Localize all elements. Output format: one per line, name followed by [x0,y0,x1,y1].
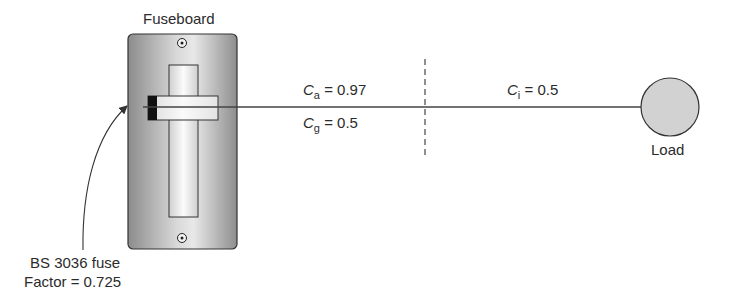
screw-icon-bottom [178,234,187,243]
factor-ci-label: Ci = 0.5 [507,81,558,98]
load-circle [641,78,699,136]
factor-ci-subscript: i [518,89,520,101]
fuse-element [148,96,157,120]
screw-icon-top [178,39,187,48]
factor-ci-value: = 0.5 [524,81,558,98]
fuse-factor-label: Factor = 0.725 [24,273,121,290]
factor-ci-symbol: C [507,81,518,98]
pointer-arrow [83,106,127,250]
factor-ca-label: Ca = 0.97 [303,81,366,98]
factor-ca-subscript: a [314,89,320,101]
fuse-carrier [148,96,218,120]
factor-cg-label: Cg = 0.5 [303,114,358,131]
factor-cg-subscript: g [314,122,320,134]
fuseboard [128,34,237,249]
load-label: Load [651,141,684,158]
fuse-type-label: BS 3036 fuse [30,254,120,271]
factor-cg-symbol: C [303,114,314,131]
factor-cg-value: = 0.5 [324,114,358,131]
busbar [169,65,198,217]
factor-ca-value: = 0.97 [324,81,366,98]
factor-ca-symbol: C [303,81,314,98]
fuseboard-title: Fuseboard [143,10,215,27]
